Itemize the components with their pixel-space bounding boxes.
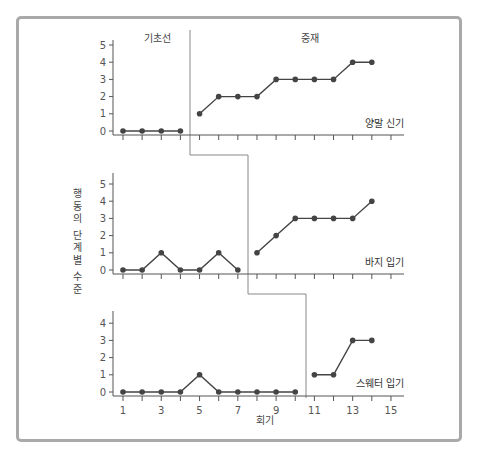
data-point (235, 94, 241, 100)
y-tick-label: 5 (100, 179, 106, 190)
phase-label-intervention: 중재 (301, 33, 319, 44)
y-tick-label: 1 (100, 369, 106, 380)
y-tick-label: 2 (100, 91, 106, 102)
data-point (273, 77, 279, 83)
y-tick-label: 4 (100, 318, 106, 329)
data-point (120, 267, 126, 273)
data-point (120, 128, 126, 134)
x-tick-label: 3 (158, 405, 164, 416)
data-point (312, 216, 318, 222)
data-point (178, 128, 184, 134)
intervention-line (257, 201, 372, 253)
data-point (216, 389, 222, 395)
panel-label-socks: 양말 신기 (365, 118, 404, 129)
data-point (331, 216, 337, 222)
phase-label-baseline: 기초선 (144, 33, 171, 44)
data-point (254, 250, 260, 256)
x-tick-label: 15 (385, 405, 398, 416)
data-point (254, 94, 260, 100)
x-tick-label: 11 (308, 405, 321, 416)
data-point (369, 338, 375, 344)
data-point (139, 267, 145, 273)
data-point (216, 250, 222, 256)
data-point (292, 77, 298, 83)
x-tick-label: 13 (346, 405, 359, 416)
y-axis-label: 행동의단계별수준 (70, 188, 84, 296)
y-tick-label: 2 (100, 352, 106, 363)
data-point (178, 389, 184, 395)
data-point (331, 77, 337, 83)
y-tick-label: 4 (100, 196, 106, 207)
data-series (120, 59, 374, 394)
data-point (369, 59, 375, 65)
x-tick-label: 5 (196, 405, 202, 416)
data-point (197, 111, 203, 117)
y-tick-label: 2 (100, 230, 106, 241)
y-tick-label: 3 (100, 74, 106, 85)
data-point (158, 250, 164, 256)
x-tick-label: 7 (235, 405, 241, 416)
data-point (312, 372, 318, 378)
x-tick-label: 1 (120, 405, 126, 416)
data-point (369, 198, 375, 204)
data-point (273, 233, 279, 239)
data-point (350, 59, 356, 65)
data-point (139, 128, 145, 134)
y-tick-label: 0 (100, 387, 106, 398)
data-point (235, 389, 241, 395)
x-axis-label: 회기 (256, 412, 274, 427)
intervention-line (200, 62, 372, 114)
data-point (197, 267, 203, 273)
panel-label-pants: 바지 입기 (365, 256, 404, 268)
baseline-line (123, 375, 295, 392)
data-point (216, 94, 222, 100)
y-tick-label: 0 (100, 126, 106, 137)
y-tick-label: 3 (100, 213, 106, 224)
y-tick-label: 5 (100, 40, 106, 51)
data-point (273, 389, 279, 395)
panel-label-sweater: 스웨터 입기 (356, 377, 404, 389)
data-point (312, 77, 318, 83)
data-point (350, 338, 356, 344)
data-point (292, 389, 298, 395)
data-point (178, 267, 184, 273)
data-point (139, 389, 145, 395)
y-tick-label: 3 (100, 335, 106, 346)
intervention-line (314, 340, 371, 374)
y-tick-label: 4 (100, 57, 106, 68)
data-point (350, 216, 356, 222)
y-tick-label: 0 (100, 265, 106, 276)
data-point (158, 389, 164, 395)
y-tick-label: 1 (100, 247, 106, 258)
data-point (158, 128, 164, 134)
data-point (331, 372, 337, 378)
phase-change-lines (190, 30, 306, 398)
phase-change-line (190, 30, 306, 398)
data-point (120, 389, 126, 395)
data-point (235, 267, 241, 273)
data-point (197, 372, 203, 378)
data-point (254, 389, 260, 395)
y-tick-label: 1 (100, 108, 106, 119)
data-point (292, 216, 298, 222)
